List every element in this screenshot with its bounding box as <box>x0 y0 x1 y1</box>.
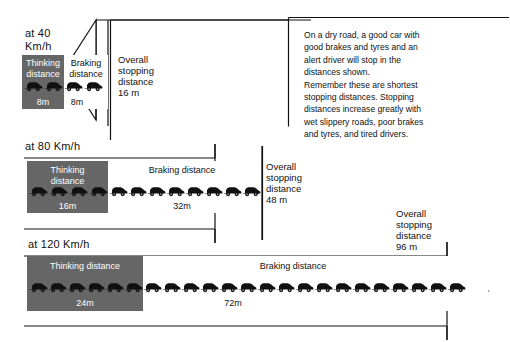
car-icon <box>333 281 352 293</box>
row-40kmh-thinking-title: Thinking distance <box>20 58 66 79</box>
row-40kmh-speed-label: at 40 Km/h <box>25 27 51 53</box>
row-80kmh-thinking-value: 16m <box>27 201 108 211</box>
row-120kmh-braking-title: Braking distance <box>143 261 443 272</box>
car-icon <box>428 281 447 293</box>
car-icon <box>105 281 124 293</box>
row-120kmh: Overall stopping distance 96 m at 120 Km… <box>0 230 510 342</box>
row-120kmh-speed-label: at 120 Km/h <box>28 238 90 251</box>
car-icon <box>109 185 128 197</box>
row-80kmh-thinking-cars <box>29 185 109 199</box>
car-icon <box>181 281 200 293</box>
car-icon <box>143 281 162 293</box>
car-icon <box>314 281 333 293</box>
row-120kmh-braking-cars <box>143 281 483 295</box>
car-icon <box>29 281 48 293</box>
row-80kmh-braking-block: Braking distance 32m <box>108 161 256 213</box>
car-icon <box>409 281 428 293</box>
car-icon <box>238 281 257 293</box>
car-icon <box>166 185 185 197</box>
car-icon <box>128 185 147 197</box>
car-icon <box>223 185 242 197</box>
row-40kmh-braking-title: Braking distance <box>63 58 109 79</box>
car-icon <box>89 185 108 197</box>
car-icon <box>84 80 103 92</box>
row-80kmh-speed-label: at 80 Km/h <box>25 140 80 153</box>
note-text: On a dry road, a good car with good brak… <box>304 29 494 141</box>
car-icon <box>48 281 67 293</box>
car-icon <box>86 281 105 293</box>
car-icon <box>185 185 204 197</box>
car-icon <box>49 185 68 197</box>
car-icon <box>204 185 223 197</box>
row-120kmh-braking-value: 72m <box>83 298 383 308</box>
car-icon <box>64 80 83 92</box>
row-40kmh-braking-value: 8m <box>56 97 98 107</box>
row-80kmh-thinking-title: Thinking distance <box>27 165 108 186</box>
row-40kmh: at 40 Km/h Thinking distance 8m <box>0 14 320 126</box>
car-icon <box>44 80 63 92</box>
row-80kmh-braking-title: Braking distance <box>108 165 256 176</box>
car-icon <box>257 281 276 293</box>
note-panel: On a dry road, a good car with good brak… <box>288 17 510 127</box>
row-120kmh-thinking-cars <box>29 281 143 295</box>
car-icon <box>295 281 314 293</box>
row-80kmh-thinking-block: Thinking distance 16m <box>27 161 108 213</box>
car-icon <box>29 185 48 197</box>
car-icon <box>200 281 219 293</box>
car-icon <box>69 185 88 197</box>
car-icon <box>24 80 43 92</box>
stopping-distance-infographic: On a dry road, a good car with good brak… <box>0 0 510 342</box>
row-40kmh-braking-block: Braking distance 8m <box>64 55 108 109</box>
car-icon <box>390 281 409 293</box>
car-icon <box>242 185 261 197</box>
row-80kmh: at 80 Km/h Thinking distance 16m Braking… <box>0 136 340 236</box>
car-icon <box>219 281 238 293</box>
car-icon <box>67 281 86 293</box>
car-icon <box>124 281 143 293</box>
row-120kmh-thinking-title: Thinking distance <box>27 261 143 272</box>
row-120kmh-overall-bracket <box>390 204 510 254</box>
row-80kmh-braking-cars <box>109 185 259 199</box>
row-40kmh-overall-label: Overall stopping distance 16 m <box>118 54 208 98</box>
row-80kmh-overall-label: Overall stopping distance 48 m <box>266 161 356 205</box>
car-icon <box>147 185 166 197</box>
car-icon <box>352 281 371 293</box>
car-icon <box>447 281 466 293</box>
row-40kmh-thinking-cars <box>24 80 64 94</box>
row-40kmh-braking-cars <box>64 80 106 94</box>
car-icon <box>162 281 181 293</box>
car-icon <box>276 281 295 293</box>
row-120kmh-braking-block: Braking distance 72m <box>143 256 488 311</box>
car-icon <box>371 281 390 293</box>
row-80kmh-braking-value: 32m <box>108 201 256 211</box>
